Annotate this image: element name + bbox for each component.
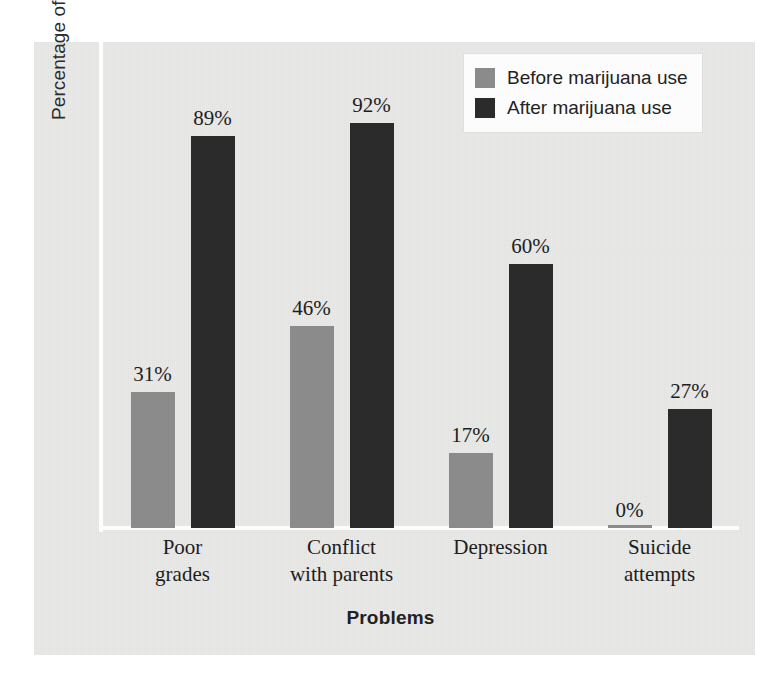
legend-item: Before marijuana use — [475, 63, 688, 93]
bar-value-label: 60% — [486, 234, 576, 259]
chart-legend: Before marijuana useAfter marijuana use — [464, 54, 702, 132]
legend-swatch-before — [475, 68, 495, 88]
bar-before — [449, 453, 493, 528]
bar-after — [668, 409, 712, 528]
x-axis-tick-label: Suicideattempts — [575, 534, 745, 588]
bar-before — [290, 326, 334, 528]
y-axis-title: Percentage of students with problem — [22, 0, 48, 120]
legend-swatch-after — [475, 98, 495, 118]
y-axis-title-text: Percentage of students with problem — [48, 0, 70, 120]
bar-value-label: 27% — [645, 379, 735, 404]
chart-figure: Percentage of students with problem 31%8… — [0, 0, 781, 681]
bar-group: 46%92% — [262, 42, 421, 528]
x-axis-tick-label: Depression — [416, 534, 586, 561]
bar-value-label: 89% — [168, 106, 258, 131]
bar-value-label: 0% — [585, 498, 675, 523]
legend-label: Before marijuana use — [507, 67, 688, 89]
x-axis-tick-label: Poorgrades — [98, 534, 268, 588]
x-axis-title: Problems — [0, 607, 781, 629]
x-axis-tick-label-line: grades — [98, 561, 268, 588]
x-axis-tick-label-line: Conflict — [257, 534, 427, 561]
bar-after — [509, 264, 553, 528]
bar-after — [350, 123, 394, 528]
bar-after — [191, 136, 235, 528]
x-axis-tick-label-line: attempts — [575, 561, 745, 588]
bar-value-label: 17% — [426, 423, 516, 448]
legend-label: After marijuana use — [507, 97, 672, 119]
bar-before — [131, 392, 175, 528]
x-axis-tick-label-line: Suicide — [575, 534, 745, 561]
bar-value-label: 92% — [327, 93, 417, 118]
x-axis-tick-label-line: with parents — [257, 561, 427, 588]
bar-value-label: 31% — [108, 362, 198, 387]
bar-before — [608, 525, 652, 528]
x-axis-tick-labels: PoorgradesConflictwith parentsDepression… — [103, 534, 739, 604]
x-axis-tick-label-line: Depression — [416, 534, 586, 561]
x-axis-tick-label: Conflictwith parents — [257, 534, 427, 588]
bar-value-label: 46% — [267, 296, 357, 321]
legend-item: After marijuana use — [475, 93, 688, 123]
bar-group: 31%89% — [103, 42, 262, 528]
x-axis-tick-label-line: Poor — [98, 534, 268, 561]
